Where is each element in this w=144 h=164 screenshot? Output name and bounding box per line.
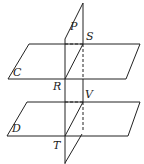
label-r: R: [52, 80, 61, 93]
label-c: C: [13, 66, 22, 79]
label-t: T: [53, 139, 62, 152]
intersection-line-rs: [65, 44, 83, 79]
intersection-line-tv: [65, 102, 83, 136]
plane-p-bottom-slant: [65, 134, 82, 163]
label-p: P: [69, 20, 78, 33]
label-v: V: [85, 88, 94, 101]
label-s: S: [86, 30, 94, 43]
label-d: D: [11, 122, 21, 135]
planes-diagram: P S C R V D T: [0, 0, 144, 164]
